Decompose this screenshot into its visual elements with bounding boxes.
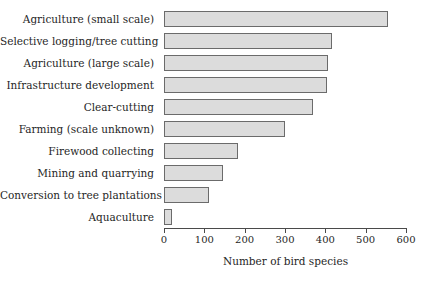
category-label: Mining and quarrying xyxy=(0,162,158,184)
x-tick-label: 100 xyxy=(195,234,214,245)
bar-row xyxy=(164,140,406,162)
category-label: Selective logging/tree cutting xyxy=(0,30,158,52)
category-label: Conversion to tree plantations xyxy=(0,184,158,206)
bar xyxy=(164,99,313,115)
bar-row xyxy=(164,8,406,30)
bar-chart: Agriculture (small scale)Selective loggi… xyxy=(0,0,430,288)
plot-area xyxy=(164,8,406,228)
x-tick xyxy=(325,229,326,233)
bar-row xyxy=(164,162,406,184)
bar-row xyxy=(164,206,406,228)
bar xyxy=(164,11,388,27)
x-tick-label: 400 xyxy=(316,234,335,245)
category-label: Agriculture (large scale) xyxy=(0,52,158,74)
bar xyxy=(164,209,172,225)
x-tick xyxy=(406,229,407,233)
category-label: Farming (scale unknown) xyxy=(0,118,158,140)
category-label: Aquaculture xyxy=(0,206,158,228)
x-tick-label: 300 xyxy=(275,234,294,245)
x-tick xyxy=(204,229,205,233)
category-label: Clear-cutting xyxy=(0,96,158,118)
x-tick xyxy=(366,229,367,233)
bar xyxy=(164,121,285,137)
x-tick-label: 0 xyxy=(161,234,167,245)
bar xyxy=(164,187,209,203)
bar xyxy=(164,33,332,49)
category-label: Firewood collecting xyxy=(0,140,158,162)
bar-row xyxy=(164,52,406,74)
category-label: Agriculture (small scale) xyxy=(0,8,158,30)
x-tick xyxy=(164,229,165,233)
bar xyxy=(164,165,223,181)
bar-row xyxy=(164,184,406,206)
x-tick-label: 500 xyxy=(356,234,375,245)
x-tick xyxy=(285,229,286,233)
category-label: Infrastructure development xyxy=(0,74,158,96)
x-tick-label: 200 xyxy=(235,234,254,245)
bar xyxy=(164,143,238,159)
x-tick xyxy=(245,229,246,233)
bar-row xyxy=(164,30,406,52)
bar-row xyxy=(164,74,406,96)
bar xyxy=(164,77,327,93)
category-axis-labels: Agriculture (small scale)Selective loggi… xyxy=(0,8,158,228)
x-axis-title: Number of bird species xyxy=(164,255,407,267)
bar-row xyxy=(164,96,406,118)
bar-row xyxy=(164,118,406,140)
bar xyxy=(164,55,328,71)
x-tick-label: 600 xyxy=(396,234,415,245)
